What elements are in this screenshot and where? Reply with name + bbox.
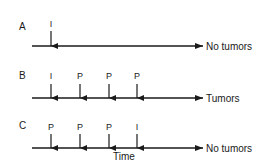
timeline-a bbox=[32, 31, 203, 46]
event-label: P bbox=[77, 123, 83, 132]
axis-label-time: Time bbox=[113, 152, 135, 161]
event-label: I bbox=[50, 72, 53, 81]
event-label: P bbox=[106, 72, 112, 81]
event-label: I bbox=[50, 20, 53, 29]
outcome-label-a: No tumors bbox=[206, 42, 252, 52]
outcome-label-c: No tumors bbox=[206, 144, 252, 154]
row-label-b: B bbox=[19, 71, 26, 81]
event-label: P bbox=[106, 123, 112, 132]
outcome-label-b: Tumors bbox=[206, 94, 240, 104]
timeline-c bbox=[32, 134, 203, 148]
row-label-c: C bbox=[19, 121, 26, 131]
timeline-b bbox=[32, 84, 203, 98]
event-label: P bbox=[77, 72, 83, 81]
event-label: P bbox=[48, 123, 54, 132]
row-label-a: A bbox=[19, 22, 26, 32]
event-label: P bbox=[134, 72, 140, 81]
event-label: I bbox=[136, 123, 139, 132]
timeline-diagram bbox=[0, 0, 273, 167]
